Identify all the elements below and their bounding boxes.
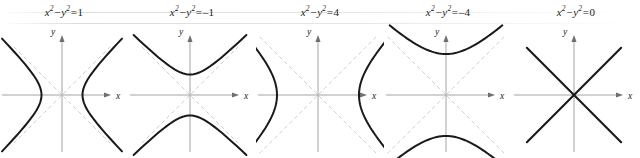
equation-label: x2−y2=–4 <box>384 6 512 18</box>
hyperbola-panel: x2−y2=4xy <box>256 0 384 158</box>
x-axis-arrowhead <box>616 92 623 97</box>
y-axis-arrowhead <box>315 35 320 42</box>
y-axis-label: y <box>178 27 184 37</box>
y-axis-arrowhead <box>443 35 448 42</box>
x-axis-label: x <box>243 91 249 101</box>
equation-label: x2−y2=1 <box>0 6 128 18</box>
x-axis-label: x <box>499 91 505 101</box>
x-axis-label: x <box>371 91 377 101</box>
x-axis-arrowhead <box>488 92 495 97</box>
hyperbola-figure: x2−y2=1xyx2−y2=–1xyx2−y2=4xyx2−y2=–4xyx2… <box>0 0 640 158</box>
plot-canvas: xy <box>128 22 256 158</box>
x-axis-arrowhead <box>232 92 239 97</box>
hyperbola-panel: x2−y2=–4xy <box>384 0 512 158</box>
x-axis-label: x <box>115 91 121 101</box>
hyperbola-panel: x2−y2=1xy <box>0 0 128 158</box>
x-axis-label: x <box>627 91 633 101</box>
y-axis-label: y <box>434 27 440 37</box>
equation-label: x2−y2=0 <box>512 6 640 18</box>
equation-label: x2−y2=–1 <box>128 6 256 18</box>
equation-label: x2−y2=4 <box>256 6 384 18</box>
y-axis-label: y <box>562 27 568 37</box>
x-axis-arrowhead <box>104 92 111 97</box>
y-axis-arrowhead <box>571 35 576 42</box>
plot-canvas: xy <box>256 22 384 158</box>
plot-canvas: xy <box>0 22 128 158</box>
y-axis-label: y <box>50 27 56 37</box>
plot-canvas: xy <box>384 22 512 158</box>
y-axis-arrowhead <box>187 35 192 42</box>
y-axis-arrowhead <box>59 35 64 42</box>
y-axis-label: y <box>306 27 312 37</box>
hyperbola-panel: x2−y2=–1xy <box>128 0 256 158</box>
hyperbola-panel: x2−y2=0xy <box>512 0 640 158</box>
x-axis-arrowhead <box>360 92 367 97</box>
plot-canvas: xy <box>512 22 640 158</box>
